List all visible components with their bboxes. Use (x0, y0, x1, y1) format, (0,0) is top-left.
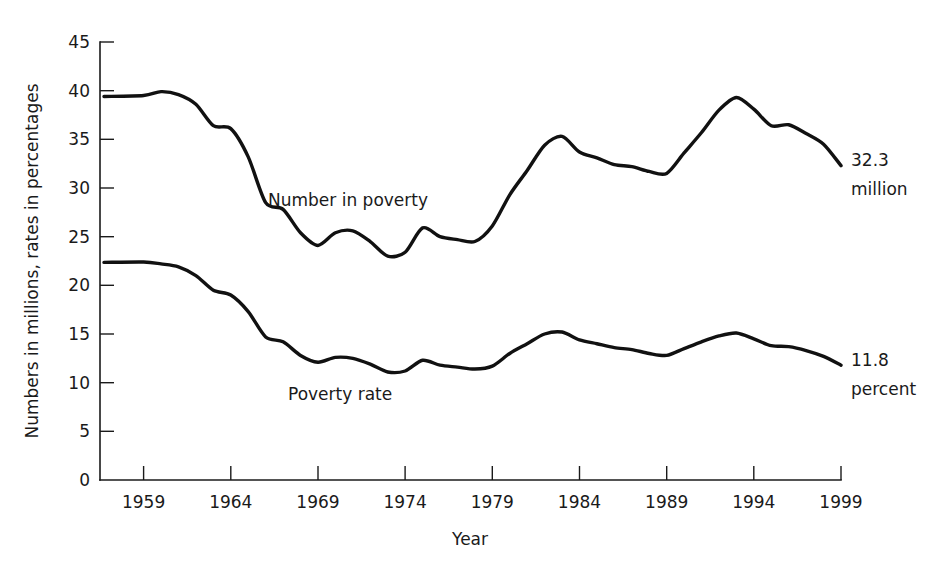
x-tick-marks (144, 466, 841, 480)
y-tick-label-5: 5 (79, 421, 90, 441)
chart-canvas: 45 40 35 30 25 20 15 10 5 0 1959 1964 (0, 0, 929, 564)
x-tick-label-1979: 1979 (471, 492, 514, 512)
axes-group (100, 42, 841, 480)
y-tick-labels: 45 40 35 30 25 20 15 10 5 0 (68, 32, 90, 490)
y-tick-label-35: 35 (68, 129, 90, 149)
y-tick-label-40: 40 (68, 81, 90, 101)
x-tick-label-1969: 1969 (296, 492, 339, 512)
x-tick-label-1994: 1994 (732, 492, 775, 512)
x-tick-label-1999: 1999 (819, 492, 862, 512)
series-line-number-in-poverty (104, 92, 841, 257)
x-tick-label-1984: 1984 (558, 492, 601, 512)
series-annotation-poverty-rate: Poverty rate (288, 384, 392, 404)
y-tick-label-20: 20 (68, 275, 90, 295)
end-label-number-value: 32.3 (851, 150, 889, 170)
end-label-rate-value: 11.8 (851, 350, 889, 370)
end-label-number-unit: million (851, 179, 908, 199)
poverty-chart-figure: 45 40 35 30 25 20 15 10 5 0 1959 1964 (0, 0, 929, 564)
y-tick-label-30: 30 (68, 178, 90, 198)
y-tick-label-45: 45 (68, 32, 90, 52)
y-tick-marks (100, 42, 114, 431)
x-tick-label-1964: 1964 (209, 492, 252, 512)
y-tick-label-10: 10 (68, 373, 90, 393)
y-tick-label-0: 0 (79, 470, 90, 490)
x-tick-label-1974: 1974 (383, 492, 426, 512)
x-tick-label-1989: 1989 (645, 492, 688, 512)
end-label-rate-unit: percent (851, 379, 916, 399)
y-axis-title: Numbers in millions, rates in percentage… (22, 83, 42, 438)
y-tick-label-15: 15 (68, 324, 90, 344)
x-axis-title: Year (451, 529, 488, 549)
series-annotation-number-in-poverty: Number in poverty (268, 190, 428, 210)
x-tick-label-1959: 1959 (122, 492, 165, 512)
series-line-poverty-rate (104, 262, 841, 373)
x-tick-labels: 1959 1964 1969 1974 1979 1984 1989 1994 … (122, 492, 863, 512)
y-tick-label-25: 25 (68, 227, 90, 247)
